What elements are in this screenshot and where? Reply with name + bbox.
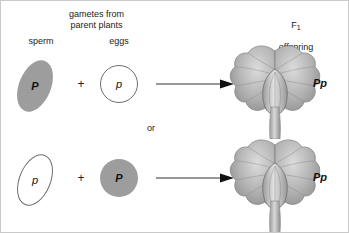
- sperm-allele-label-row1: P: [19, 59, 51, 113]
- f1-subscript: 1: [297, 24, 301, 31]
- or-separator-label: or: [126, 123, 176, 134]
- egg-cell-dominant: P: [100, 159, 138, 197]
- sperm-column-label: sperm: [9, 36, 73, 47]
- cross-arrow-row1: [156, 78, 234, 90]
- pea-flower-offspring-row1: [229, 39, 321, 139]
- sperm-allele-label-row2: p: [20, 154, 50, 206]
- egg-allele-label-row1: p: [101, 66, 137, 102]
- offspring-genotype-row1: Pp: [313, 77, 327, 89]
- gametes-heading: gametes from parent plants: [29, 9, 164, 31]
- egg-allele-label-row2: P: [100, 159, 138, 197]
- offspring-genotype-row2: Pp: [313, 171, 327, 183]
- sperm-cell-recessive: p: [10, 149, 60, 211]
- plus-sign-row2: +: [71, 172, 91, 184]
- pea-flower-offspring-row2: [229, 133, 321, 233]
- punnett-gamete-diagram: gametes from parent plants sperm eggs F1…: [0, 0, 349, 233]
- plus-sign-row1: +: [71, 78, 91, 90]
- eggs-column-label: eggs: [89, 36, 149, 47]
- cross-arrow-row2: [156, 172, 234, 184]
- f1-generation-label: F: [291, 20, 297, 30]
- sperm-cell-dominant: P: [10, 55, 60, 117]
- egg-cell-recessive: p: [100, 65, 138, 103]
